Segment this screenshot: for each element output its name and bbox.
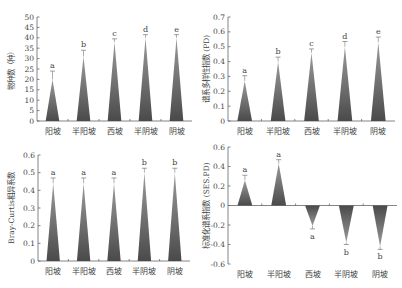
significance-letter: b <box>276 47 281 56</box>
bar: b <box>271 47 286 121</box>
y-tick-label: 0.7 <box>213 13 225 22</box>
y-tick-label: 0 <box>220 201 225 210</box>
x-tick-label: 阳坡 <box>45 126 61 136</box>
bar: a <box>107 168 120 261</box>
x-tick-label: 西坡 <box>305 269 321 279</box>
y-tick-label: 5 <box>29 106 34 115</box>
bar: a <box>46 61 60 121</box>
y-tick-label: 0.2 <box>213 182 225 191</box>
significance-letter: a <box>276 150 281 159</box>
bar: c <box>108 29 122 121</box>
y-tick-label: 0.6 <box>213 27 225 36</box>
significance-letter: b <box>81 40 86 49</box>
significance-letter: d <box>342 32 347 41</box>
chart-svg: 00.10.20.30.40.50.60.7谱系多样性指数 (PD)阳坡半阳坡西… <box>200 0 402 144</box>
y-tick-label: 0.2 <box>23 221 35 230</box>
y-tick-label: 0.1 <box>23 239 35 248</box>
y-tick-label: 25 <box>24 65 34 74</box>
bar: b <box>138 158 151 261</box>
bar: e <box>170 25 184 121</box>
significance-letter: b <box>142 158 147 167</box>
x-tick-label: 阴坡 <box>169 126 185 136</box>
bar: b <box>168 158 181 261</box>
x-tick-label: 半阳坡 <box>267 269 291 279</box>
bar: a <box>237 66 252 121</box>
y-axis-label: 物种数（种） <box>6 48 16 90</box>
y-tick-label: 0.3 <box>213 72 225 81</box>
significance-letter: c <box>309 39 314 48</box>
bar: b <box>77 40 91 121</box>
chart-bray-curtis: 00.10.20.30.40.50.6Bray-Curtis相异系数阳坡半阳坡西… <box>0 144 200 288</box>
bar: a <box>77 168 90 261</box>
x-tick-label: 半阳坡 <box>72 126 96 136</box>
bar: c <box>304 39 319 121</box>
chart-svg: -0.6-0.4-0.200.20.40.6标准化谱系指数 (SES.PD)阳坡… <box>200 144 402 288</box>
chart-svg: 00.10.20.30.40.50.6Bray-Curtis相异系数阳坡半阳坡西… <box>0 144 200 288</box>
x-tick-label: 阴坡 <box>370 126 386 136</box>
bar: d <box>139 25 153 121</box>
bar: a <box>271 150 286 206</box>
y-tick-label: 0.4 <box>23 186 35 195</box>
y-axis: 05101520253035404550 <box>24 13 39 126</box>
y-tick-label: -0.2 <box>211 221 226 230</box>
bar: a <box>305 206 320 241</box>
significance-letter: c <box>112 29 117 38</box>
bar: d <box>338 32 353 121</box>
significance-letter: b <box>378 252 383 261</box>
y-tick-label: 15 <box>24 85 34 94</box>
x-tick-label: 半阳坡 <box>72 266 96 276</box>
y-axis-label: 谱系多样性指数 (PD) <box>201 35 211 103</box>
y-tick-label: 0 <box>29 117 34 126</box>
y-tick-label: 30 <box>24 54 34 63</box>
bar: b <box>339 206 354 257</box>
y-tick-label: 10 <box>24 96 34 105</box>
significance-letter: a <box>112 168 117 177</box>
bar: a <box>47 168 60 261</box>
y-axis-label: 标准化谱系指数 (SES.PD) <box>201 162 211 248</box>
y-tick-label: 0.5 <box>213 42 225 51</box>
y-tick-label: -0.4 <box>211 240 226 249</box>
y-axis: 00.10.20.30.40.50.60.7 <box>213 13 230 126</box>
y-tick-label: -0.6 <box>211 260 226 269</box>
y-tick-label: 0.4 <box>213 57 225 66</box>
y-tick-label: 0.6 <box>213 144 225 152</box>
bar: b <box>373 206 388 262</box>
y-tick-label: 0.5 <box>23 168 35 177</box>
x-tick-label: 西坡 <box>304 126 320 136</box>
y-tick-label: 0 <box>220 117 225 126</box>
significance-letter: a <box>310 232 315 241</box>
y-tick-label: 50 <box>24 13 34 22</box>
y-tick-label: 0.1 <box>213 102 225 111</box>
x-axis: 阳坡半阳坡西坡半阴坡阴坡 <box>37 119 192 136</box>
y-tick-label: 35 <box>24 44 34 53</box>
significance-letter: b <box>344 248 349 257</box>
x-tick-label: 西坡 <box>106 266 122 276</box>
y-axis-label: Bray-Curtis相异系数 <box>6 171 16 244</box>
x-tick-label: 半阴坡 <box>333 126 357 136</box>
significance-letter: e <box>376 27 381 36</box>
x-tick-label: 西坡 <box>107 126 123 136</box>
x-tick-label: 阳坡 <box>237 269 253 279</box>
significance-letter: a <box>81 168 86 177</box>
y-axis: 00.10.20.30.40.50.6 <box>23 151 40 266</box>
x-tick-label: 半阴坡 <box>134 126 158 136</box>
x-tick-label: 阳坡 <box>45 266 61 276</box>
significance-letter: a <box>243 165 248 174</box>
bar: e <box>371 27 386 121</box>
x-tick-label: 半阴坡 <box>132 266 156 276</box>
y-tick-label: 0 <box>30 257 35 266</box>
y-tick-label: 0.4 <box>213 162 225 171</box>
y-tick-label: 40 <box>24 33 34 42</box>
y-tick-label: 0.6 <box>23 151 35 160</box>
x-tick-label: 半阴坡 <box>334 269 358 279</box>
y-tick-label: 0.3 <box>23 204 35 213</box>
significance-letter: a <box>51 168 56 177</box>
significance-letter: b <box>172 158 177 167</box>
significance-letter: e <box>174 25 179 34</box>
x-tick-label: 半阳坡 <box>266 126 290 136</box>
chart-svg: 05101520253035404550物种数（种）阳坡半阳坡西坡半阴坡阴坡ab… <box>0 0 200 144</box>
significance-letter: a <box>242 66 247 75</box>
significance-letter: d <box>143 25 148 34</box>
x-axis: 阳坡半阳坡西坡半阴坡阴坡 <box>228 119 395 136</box>
x-tick-label: 阴坡 <box>372 269 388 279</box>
